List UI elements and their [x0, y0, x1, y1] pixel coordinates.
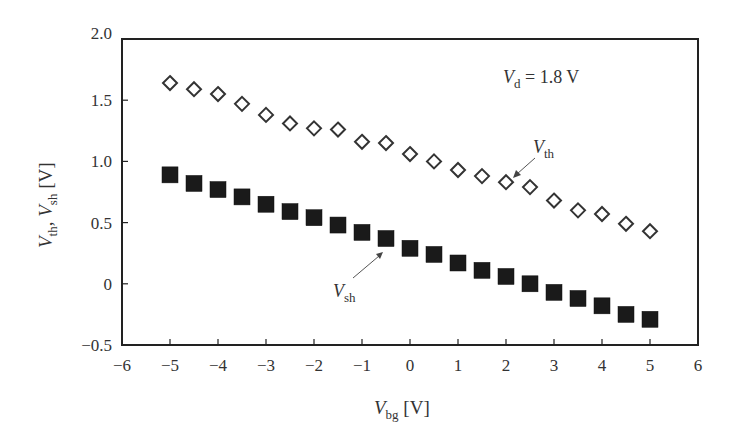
vth-diamond-marker — [187, 82, 201, 96]
y-tick-label: 0.5 — [91, 214, 112, 233]
vth-diamond-marker — [523, 180, 537, 194]
x-tick-label: −4 — [209, 356, 228, 375]
x-tick-label: −2 — [305, 356, 323, 375]
vsh-square-marker — [258, 196, 274, 212]
vth-diamond-marker — [163, 76, 177, 90]
vth-diamond-marker — [235, 97, 249, 111]
series-vsh-markers — [162, 167, 658, 327]
vsh-square-marker — [570, 290, 586, 306]
x-tick-label: 1 — [454, 356, 463, 375]
vth-diamond-marker — [259, 108, 273, 122]
vd-rest: = 1.8 V — [521, 67, 580, 87]
vth-arrow-icon — [513, 158, 535, 178]
y-tick-label: 0 — [104, 275, 113, 294]
vth-diamond-marker — [403, 147, 417, 161]
chart: −6−5−4−3−2−10123456 −0.500.51.01.52.0 Vb… — [0, 0, 737, 442]
vth-diamond-marker — [331, 123, 345, 137]
y-tick-label: −0.5 — [81, 336, 112, 355]
vsh-square-marker — [402, 240, 418, 256]
x-label-unit: [V] — [399, 397, 430, 418]
vsh-arrow-icon — [353, 252, 383, 278]
x-axis-label: Vbg [V] — [374, 397, 430, 422]
vth-sub: th — [544, 146, 555, 161]
y-axis-label: Vth, Vsh [V] — [35, 162, 60, 248]
vth-diamond-marker — [571, 203, 585, 217]
vsh-sub: sh — [344, 290, 356, 305]
y-label-unit: [V] — [35, 162, 56, 193]
y-tick-label: 2.0 — [91, 24, 112, 43]
vth-diamond-marker — [355, 135, 369, 149]
y-tick-label: 1.5 — [91, 91, 112, 110]
series-vth-markers — [163, 76, 657, 238]
vth-diamond-marker — [211, 87, 225, 101]
x-tick-label: 2 — [502, 356, 511, 375]
x-tick-label: −3 — [257, 356, 275, 375]
x-tick-label: 6 — [694, 356, 703, 375]
vsh-square-marker — [474, 262, 490, 278]
vth-diamond-marker — [283, 116, 297, 130]
vth-diamond-marker — [427, 154, 441, 168]
vsh-square-marker — [522, 276, 538, 292]
vsh-square-marker — [186, 175, 202, 191]
x-tick-label: −1 — [353, 356, 371, 375]
vth-diamond-marker — [451, 163, 465, 177]
vsh-square-marker — [642, 311, 658, 327]
x-tick-label: 3 — [550, 356, 559, 375]
plot-border — [122, 39, 698, 345]
vsh-square-marker — [234, 189, 250, 205]
vsh-square-marker — [594, 298, 610, 314]
vsh-square-marker — [354, 224, 370, 240]
vsh-square-marker — [498, 268, 514, 284]
x-label-sub: bg — [386, 407, 400, 422]
vth-annotation: Vth — [533, 137, 555, 161]
vth-diamond-marker — [379, 136, 393, 150]
vsh-square-marker — [162, 167, 178, 183]
x-tick-label: −5 — [161, 356, 179, 375]
vth-diamond-marker — [475, 169, 489, 183]
x-tick-label: −6 — [113, 356, 131, 375]
vth-diamond-marker — [643, 224, 657, 238]
vth-diamond-marker — [547, 194, 561, 208]
x-tick-label: 4 — [598, 356, 607, 375]
vsh-square-marker — [618, 306, 634, 322]
x-tick-label: 5 — [646, 356, 655, 375]
y-label-sub1: th — [45, 226, 60, 237]
vsh-annotation: Vsh — [333, 281, 356, 305]
vsh-square-marker — [282, 204, 298, 220]
vth-diamond-marker — [619, 217, 633, 231]
vsh-square-marker — [210, 182, 226, 198]
vsh-square-marker — [306, 210, 322, 226]
y-label-sub2: sh — [45, 193, 60, 205]
vth-diamond-marker — [499, 175, 513, 189]
vsh-square-marker — [546, 284, 562, 300]
x-tick-label: 0 — [406, 356, 415, 375]
y-label-sep: , — [35, 217, 56, 227]
vsh-square-marker — [426, 246, 442, 262]
vd-annotation: Vd = 1.8 V — [503, 67, 579, 91]
y-tick-label: 1.0 — [91, 152, 112, 171]
vsh-square-marker — [330, 217, 346, 233]
vsh-square-marker — [450, 255, 466, 271]
vth-diamond-marker — [307, 121, 321, 135]
vsh-square-marker — [378, 231, 394, 247]
plot-frame — [122, 39, 698, 345]
vth-diamond-marker — [595, 207, 609, 221]
y-axis-ticks: −0.500.51.01.52.0 — [81, 24, 128, 355]
